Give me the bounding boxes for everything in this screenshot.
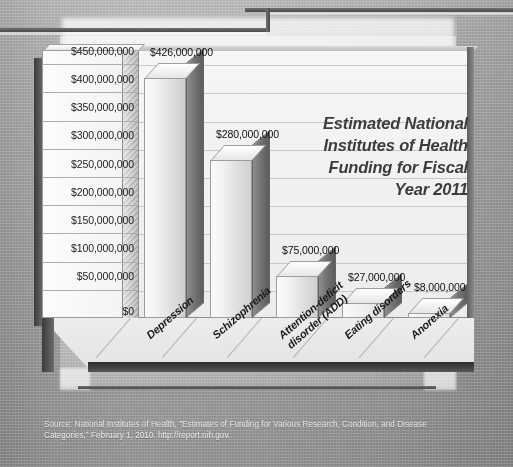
frame-rule-right <box>245 8 513 12</box>
frame-highlight-right <box>270 12 513 15</box>
chart-panel: $450,000,000$400,000,000$350,000,000$300… <box>30 44 473 374</box>
value-label-0: $426,000,000 <box>150 46 213 58</box>
y-tick-label-8: $50,000,000 <box>42 270 134 282</box>
chart-title-line-3: Funding for Fiscal <box>273 156 468 178</box>
chart-title: Estimated NationalInstitutes of HealthFu… <box>273 112 468 200</box>
chart-screenshot: $450,000,000$400,000,000$350,000,000$300… <box>0 0 513 467</box>
frame-rule-left <box>0 28 270 32</box>
source-line-2: Categories," February 1, 2010. http://re… <box>44 431 444 442</box>
floor-left-edge <box>42 318 54 372</box>
y-axis-separator-1 <box>42 92 138 93</box>
y-tick-label-6: $150,000,000 <box>42 214 134 226</box>
chart-floor <box>42 318 474 374</box>
y-tick-label-0: $450,000,000 <box>42 45 134 57</box>
value-label-1: $280,000,000 <box>216 128 279 140</box>
bar-side-face-0 <box>186 48 204 318</box>
y-axis-separator-0 <box>42 64 138 65</box>
y-axis-separator-6 <box>42 233 138 234</box>
bar-front-face-0 <box>144 78 186 318</box>
frame-rule-bottom <box>78 386 436 389</box>
bar-0 <box>144 78 186 318</box>
y-tick-label-2: $350,000,000 <box>42 101 134 113</box>
chart-title-line-1: Estimated National <box>273 112 468 134</box>
chart-title-line-4: Year 2011 <box>273 178 468 200</box>
y-axis-separator-2 <box>42 121 138 122</box>
frame-rule-step <box>266 8 270 32</box>
y-tick-label-4: $250,000,000 <box>42 158 134 170</box>
bar-1 <box>210 160 252 318</box>
y-tick-label-3: $300,000,000 <box>42 129 134 141</box>
y-axis-separator-5 <box>42 205 138 206</box>
source-note: Source: National Institutes of Health, "… <box>44 420 444 441</box>
value-label-4: $8,000,000 <box>414 281 466 293</box>
y-tick-label-7: $100,000,000 <box>42 242 134 254</box>
y-tick-label-9: $0 <box>42 305 134 317</box>
y-tick-label-1: $400,000,000 <box>42 73 134 85</box>
chart-title-line-2: Institutes of Health <box>273 134 468 156</box>
y-axis-separator-7 <box>42 262 138 263</box>
value-label-2: $75,000,000 <box>282 244 339 256</box>
y-tick-label-5: $200,000,000 <box>42 186 134 198</box>
source-line-1: Source: National Institutes of Health, "… <box>44 420 444 431</box>
bar-front-face-1 <box>210 160 252 318</box>
y-axis-separator-8 <box>42 290 138 291</box>
plot-right-rail <box>467 47 474 319</box>
floor-front-edge <box>42 362 474 372</box>
y-axis-separator-3 <box>42 149 138 150</box>
frame-highlight-left <box>0 32 266 35</box>
y-axis-separator-4 <box>42 177 138 178</box>
